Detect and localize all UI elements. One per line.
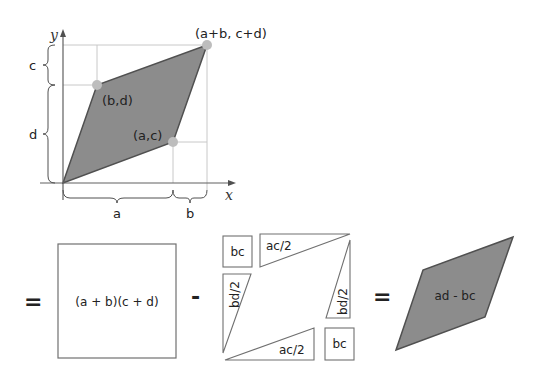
equation-row: = (a + b)(c + d) - bc ac/2 bd/2 bd/2 ac/… (24, 234, 513, 360)
equals-sign-2: = (373, 284, 391, 309)
piece-ac2-bottom-label: ac/2 (279, 343, 305, 357)
brace-c (43, 45, 55, 85)
coordinate-plot: x y (a+b, c+d) (b,d) (a,c) c d a b (29, 26, 267, 221)
label-a-c: (a,c) (133, 128, 162, 143)
brace-label-c: c (29, 58, 36, 73)
parallelogram (63, 45, 207, 183)
piece-bd2-left-label: bd/2 (228, 281, 242, 308)
brace-label-b: b (186, 206, 194, 221)
piece-bc-bottom-right-label: bc (332, 337, 346, 351)
y-axis-label: y (49, 27, 59, 43)
big-square-label: (a + b)(c + d) (75, 295, 158, 309)
brace-d (43, 85, 55, 183)
point-b-d (92, 80, 102, 90)
minus-sign: - (191, 284, 200, 309)
brace-a (63, 190, 173, 203)
x-axis-arrow-icon (228, 180, 236, 186)
result-label: ad - bc (434, 289, 475, 303)
label-a-plus-b-c-plus-d: (a+b, c+d) (195, 26, 267, 41)
point-a-c (168, 137, 178, 147)
label-b-d: (b,d) (102, 93, 133, 108)
point-top-right (202, 40, 212, 50)
brace-label-a: a (113, 206, 121, 221)
equals-sign-1: = (24, 289, 42, 314)
piece-bc-top-left-label: bc (230, 245, 244, 259)
determinant-area-diagram: x y (a+b, c+d) (b,d) (a,c) c d a b = (a … (0, 0, 539, 379)
piece-ac2-top-label: ac/2 (266, 239, 292, 253)
piece-bd2-right-label: bd/2 (336, 288, 350, 315)
brace-b (173, 190, 207, 203)
brace-label-d: d (29, 127, 37, 142)
x-axis-label: x (225, 187, 233, 203)
y-axis-arrow-icon (60, 29, 66, 37)
